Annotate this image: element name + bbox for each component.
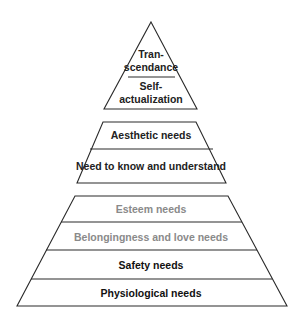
deficiency-group: Esteem needs Belongingness and love need… [17, 196, 287, 306]
level-label: actualization [119, 93, 183, 105]
transcendence-group: Tran- scendance Self- actualization [104, 22, 197, 109]
level-need-to-know: Need to know and understand [76, 160, 226, 172]
level-aesthetic-needs: Aesthetic needs [111, 129, 192, 141]
level-belongingness-needs: Belongingness and love needs [74, 231, 228, 243]
level-safety-needs: Safety needs [119, 259, 184, 271]
level-label: Self- [140, 80, 163, 92]
level-self-actualization: Self- actualization [119, 80, 183, 105]
pyramid-diagram: Tran- scendance Self- actualization Aest… [0, 0, 303, 320]
level-label: Tran- [138, 48, 164, 60]
level-physiological-needs: Physiological needs [101, 287, 202, 299]
level-esteem-needs: Esteem needs [116, 203, 187, 215]
level-label: scendance [124, 61, 178, 73]
level-transcendence: Tran- scendance [124, 48, 178, 73]
growth-group: Aesthetic needs Need to know and underst… [76, 122, 226, 183]
